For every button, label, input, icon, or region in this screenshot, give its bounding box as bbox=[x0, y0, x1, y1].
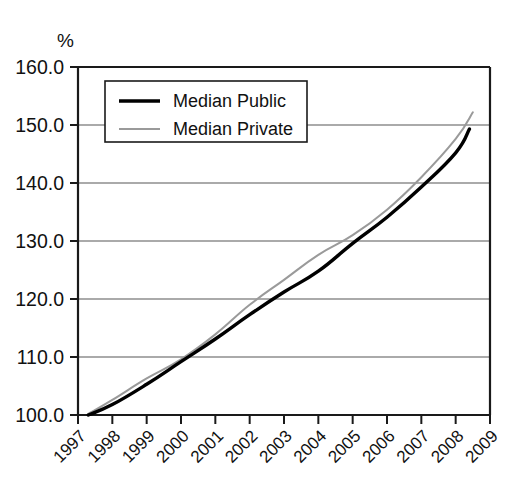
y-axis-tick-label: 140.0 bbox=[15, 172, 64, 194]
y-axis-tick-label: 100.0 bbox=[15, 404, 64, 426]
legend-label: Median Public bbox=[173, 91, 286, 111]
y-axis-tick-label: 120.0 bbox=[15, 288, 64, 310]
chart-legend: Median PublicMedian Private bbox=[105, 81, 307, 142]
chart-canvas: % 160.0150.0140.0130.0120.0110.0100.0 19… bbox=[0, 0, 520, 498]
y-axis-unit-label: % bbox=[57, 30, 74, 51]
y-axis-tick-label: 160.0 bbox=[15, 56, 64, 78]
y-axis-tick-label: 110.0 bbox=[17, 346, 65, 368]
line-chart: % 160.0150.0140.0130.0120.0110.0100.0 19… bbox=[0, 0, 520, 498]
y-axis-tick-label: 130.0 bbox=[15, 230, 64, 252]
y-axis-tick-label: 150.0 bbox=[15, 114, 64, 136]
legend-label: Median Private bbox=[173, 119, 293, 139]
